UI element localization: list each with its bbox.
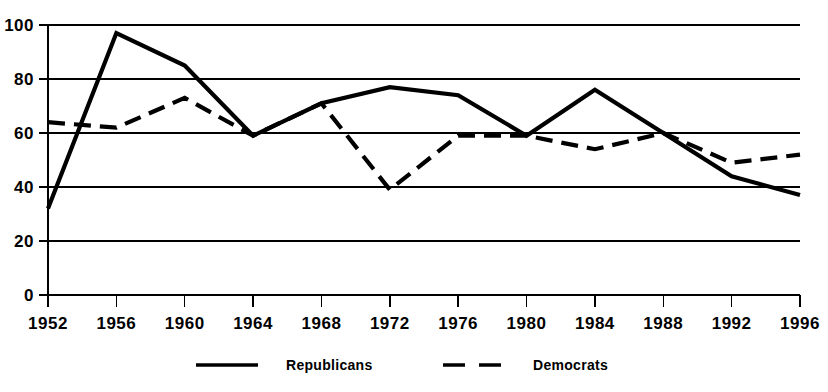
- y-axis-ticks: [39, 25, 48, 295]
- x-tick-label: 1992: [700, 315, 764, 332]
- y-tick-label: 80: [0, 71, 34, 88]
- x-tick-label: 1988: [631, 315, 695, 332]
- chart-canvas: [0, 0, 828, 392]
- legend-label-republicans: Republicans: [286, 358, 373, 372]
- x-tick-label: 1984: [563, 315, 627, 332]
- y-tick-label: 40: [0, 179, 34, 196]
- line-chart: 020406080100 195219561960196419681972197…: [0, 0, 828, 392]
- x-tick-label: 1972: [358, 315, 422, 332]
- gridlines: [48, 25, 800, 295]
- y-tick-label: 100: [0, 17, 34, 34]
- x-tick-label: 1968: [289, 315, 353, 332]
- x-tick-label: 1976: [426, 315, 490, 332]
- x-tick-label: 1952: [16, 315, 80, 332]
- series-line-republicans: [48, 33, 800, 209]
- y-tick-label: 0: [0, 287, 34, 304]
- x-tick-label: 1956: [84, 315, 148, 332]
- x-tick-label: 1964: [221, 315, 285, 332]
- x-tick-label: 1996: [768, 315, 828, 332]
- y-tick-label: 20: [0, 233, 34, 250]
- series-line-democrats: [48, 98, 800, 190]
- legend-label-democrats: Democrats: [533, 358, 608, 372]
- y-tick-label: 60: [0, 125, 34, 142]
- x-axis-ticks: [48, 295, 800, 307]
- x-tick-label: 1960: [153, 315, 217, 332]
- x-tick-label: 1980: [495, 315, 559, 332]
- data-series-group: [48, 33, 800, 209]
